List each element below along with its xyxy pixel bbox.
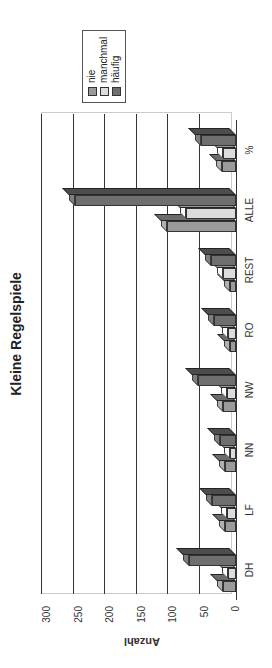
y-tick-label: 0 [230, 606, 241, 632]
bar-nie-% [222, 161, 236, 172]
bar-nie-DH [223, 581, 236, 592]
plot-back-wall [41, 112, 232, 594]
bar-manchmal-REST [223, 268, 236, 279]
y-tick-label: 50 [199, 606, 210, 632]
y-tick-label: 150 [136, 606, 147, 632]
bar-manchmal-RO [228, 328, 236, 339]
legend-item-nie: nie [86, 37, 98, 96]
x-category-label: DH [244, 545, 255, 595]
y-tick-label: 300 [41, 606, 52, 632]
gridline [41, 114, 42, 594]
bar-häufig-NW [198, 375, 236, 386]
legend-label: nie [86, 70, 98, 83]
bar-häufig-REST [211, 255, 236, 266]
bar-häufig-LF [212, 495, 236, 506]
bar-manchmal-LF [227, 508, 236, 519]
legend-swatch-icon [100, 87, 109, 96]
x-category-label: REST [244, 245, 255, 295]
legend-item-häufig: häufig [110, 37, 122, 96]
gridline [73, 114, 74, 594]
legend-item-manchmal: manchmal [98, 37, 110, 96]
bar-manchmal-NW [227, 388, 236, 399]
bar-häufig-RO [214, 315, 236, 326]
bar-nie-REST [230, 281, 236, 292]
bar-manchmal-% [223, 148, 236, 159]
legend-label: häufig [110, 56, 122, 83]
gridline [199, 114, 200, 594]
legend-swatch-icon [88, 87, 97, 96]
bar-nie-NW [223, 401, 236, 412]
chart-stage: Kleine Regelspiele Anzahl niemanchmalhäu… [0, 0, 272, 668]
bar-häufig-DH [189, 555, 236, 566]
gridline [104, 114, 105, 594]
legend: niemanchmalhäufig [82, 30, 126, 103]
y-tick-label: 200 [104, 606, 115, 632]
legend-swatch-icon [112, 87, 121, 96]
x-category-label: LF [244, 485, 255, 535]
bar-nie-NN [225, 461, 236, 472]
y-tick-label: 100 [167, 606, 178, 632]
x-category-label: NN [244, 425, 255, 475]
y-tick-label: 250 [73, 606, 84, 632]
x-category-label: ALLE [244, 185, 255, 235]
bar-nie-ALLE [167, 221, 236, 232]
gridline [167, 114, 168, 594]
bar-häufig-NN [220, 435, 236, 446]
bar-manchmal-ALLE [186, 208, 236, 219]
bar-häufig-% [201, 135, 236, 146]
gridline [136, 114, 137, 594]
bar-nie-LF [225, 521, 236, 532]
legend-label: manchmal [98, 37, 110, 83]
x-axis-line [236, 120, 237, 600]
x-category-label: RO [244, 305, 255, 355]
bar-häufig-ALLE [75, 195, 236, 206]
bar-manchmal-DH [228, 568, 236, 579]
bar-nie-RO [230, 341, 236, 352]
y-axis-label: Anzahl [123, 636, 159, 648]
x-category-label: % [244, 125, 255, 175]
x-category-label: NW [244, 365, 255, 415]
bar-manchmal-NN [230, 448, 236, 459]
chart-title: Kleine Regelspiele [8, 0, 24, 668]
